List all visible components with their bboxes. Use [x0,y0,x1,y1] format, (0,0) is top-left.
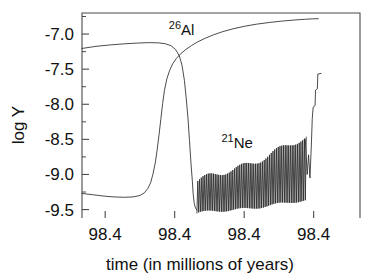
ne21-label: 21Ne [221,132,252,151]
x-tick-label: 98.4 [158,225,191,244]
curve-annotations: 26Al21Ne [169,19,253,150]
x-axis-title: time (in millions of years) [106,255,294,274]
curve-26al-upper-branch [82,43,197,210]
y-tick-label: -8.5 [45,130,74,149]
y-tick-label: -9.0 [45,165,74,184]
y-axis-ticks [82,17,89,210]
y-tick-label: -7.5 [45,60,74,79]
x-tick-label: 98.4 [228,225,261,244]
y-tick-label: -9.5 [45,201,74,220]
curve-21ne-tail [305,73,321,178]
x-axis-ticks [105,211,314,218]
y-axis-title: log Y [9,106,28,144]
ne21-label-element-symbol: Ne [234,134,253,151]
ne21-label-mass-number: 21 [221,132,233,144]
y-axis-tick-labels: -7.0-7.5-8.0-8.5-9.0-9.5 [45,25,74,220]
y-tick-label: -7.0 [45,25,74,44]
x-axis-tick-labels: 98.498.498.498.4 [89,225,331,244]
al26-label-mass-number: 26 [169,19,181,31]
x-tick-label: 98.4 [89,225,122,244]
x-tick-label: 98.4 [297,225,330,244]
al26-label: 26Al [169,19,195,38]
y-tick-label: -8.0 [45,95,74,114]
data-curves [82,19,321,213]
al26-label-element-symbol: Al [181,21,194,38]
isotope-abundance-chart: -7.0-7.5-8.0-8.5-9.0-9.5 98.498.498.498.… [0,0,377,278]
figure-container: -7.0-7.5-8.0-8.5-9.0-9.5 98.498.498.498.… [0,0,377,278]
